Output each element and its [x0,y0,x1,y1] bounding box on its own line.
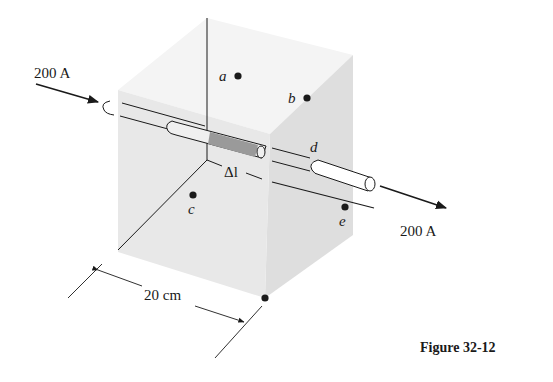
point-c-label: c [188,201,195,217]
current-in-label: 200 A [34,65,70,81]
current-in-arrow [36,84,98,102]
point-a-dot [234,72,241,79]
point-b-dot [303,94,310,101]
pipe-exit-cap [365,177,375,191]
pipe-entrance-cap [103,101,114,115]
current-out-label: 200 A [400,223,436,239]
point-e-label: e [339,213,346,229]
point-b-label: b [288,90,296,106]
point-d-label: d [310,139,318,155]
point-e-dot [341,203,348,210]
point-a-label: a [219,68,227,84]
figure-caption: Figure 32-12 [420,340,496,355]
current-out-arrow [380,186,446,208]
cube-corner-dot [261,294,268,301]
cube [118,18,374,298]
figure-32-12-diagram: 200 A 200 A a b c d e Δl 20 cm Figure 32… [0,0,553,382]
point-c-dot [189,191,196,198]
dimension-label: 20 cm [144,287,181,303]
delta-l-label: Δl [224,164,238,180]
